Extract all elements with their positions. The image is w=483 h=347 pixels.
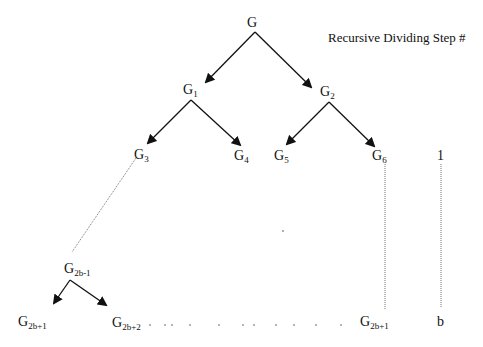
node-subscript: 2b+2 bbox=[122, 322, 141, 332]
node-label: G bbox=[18, 314, 28, 329]
step-label-last: b bbox=[437, 315, 444, 329]
node-g6: G6 bbox=[372, 149, 387, 165]
node-label: G bbox=[247, 15, 257, 30]
dotted-g3-to-g2bm1 bbox=[72, 158, 136, 252]
edge-g1-g4 bbox=[191, 100, 240, 145]
node-g2b-plus-1-right: G2b+1 bbox=[360, 315, 389, 331]
node-g4: G4 bbox=[234, 149, 249, 165]
node-subscript: 2b-1 bbox=[74, 268, 91, 278]
edge-g1-g3 bbox=[148, 100, 191, 143]
node-subscript: 6 bbox=[382, 155, 387, 165]
node-g2b-minus-1: G2b-1 bbox=[64, 262, 91, 278]
node-subscript: 4 bbox=[244, 155, 249, 165]
node-subscript: 5 bbox=[284, 155, 289, 165]
node-g2: G2 bbox=[320, 85, 335, 101]
edge-g2-g6 bbox=[329, 102, 374, 146]
edge-g-g2 bbox=[255, 32, 311, 87]
edge-g2bm1-g2bp1 bbox=[54, 280, 70, 303]
node-g: G bbox=[247, 16, 257, 30]
node-subscript: 2b+1 bbox=[28, 321, 47, 331]
ellipsis-dots bbox=[149, 324, 342, 326]
node-g2b-plus-2: G2b+2 bbox=[112, 316, 141, 332]
node-label: G bbox=[112, 315, 122, 330]
node-g5: G5 bbox=[274, 149, 289, 165]
node-g2b-plus-1-left: G2b+1 bbox=[18, 315, 47, 331]
node-label: G bbox=[274, 148, 284, 163]
edge-g2bm1-g2bp2 bbox=[70, 280, 106, 305]
node-label: G bbox=[183, 82, 193, 97]
node-label: G bbox=[234, 148, 244, 163]
step-number-heading: Recursive Dividing Step # bbox=[328, 30, 466, 46]
edge-g2-g5 bbox=[287, 102, 329, 144]
node-label: G bbox=[360, 314, 370, 329]
node-subscript: 2b+1 bbox=[370, 321, 389, 331]
node-g3: G3 bbox=[134, 148, 149, 164]
node-label: G bbox=[320, 84, 330, 99]
scan-artifact bbox=[282, 230, 284, 232]
node-label: G bbox=[64, 261, 74, 276]
node-label: G bbox=[372, 148, 382, 163]
step-label-first: 1 bbox=[437, 149, 444, 163]
edge-g-g1 bbox=[206, 32, 255, 82]
node-label: G bbox=[134, 147, 144, 162]
node-subscript: 1 bbox=[193, 89, 198, 99]
node-subscript: 3 bbox=[144, 154, 149, 164]
tree-edges bbox=[0, 0, 483, 347]
node-subscript: 2 bbox=[330, 91, 335, 101]
node-g1: G1 bbox=[183, 83, 198, 99]
